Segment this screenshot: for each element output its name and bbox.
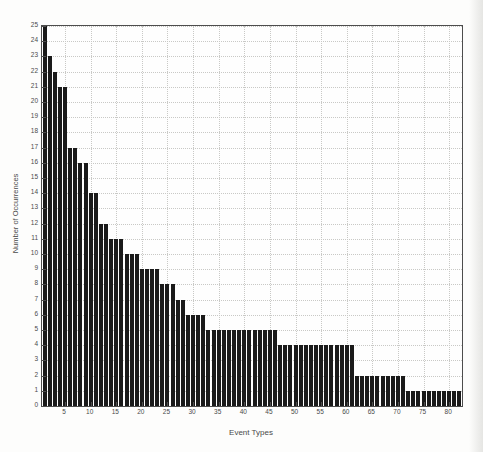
- y-tick-mark: [42, 178, 46, 179]
- bar: [43, 26, 47, 406]
- x-tick-mark: [372, 402, 373, 406]
- y-axis-title: Number of Occurrences: [11, 139, 20, 289]
- y-tick-label: 4: [18, 341, 38, 348]
- bar: [355, 376, 359, 406]
- bar: [288, 345, 292, 406]
- bar: [242, 330, 246, 406]
- bar: [130, 254, 134, 406]
- bar: [145, 269, 149, 406]
- y-tick-label: 20: [18, 98, 38, 105]
- bar: [365, 376, 369, 406]
- y-tick-label: 3: [18, 356, 38, 363]
- bar: [186, 315, 190, 406]
- bar: [247, 330, 251, 406]
- bar: [104, 224, 108, 406]
- bar: [345, 345, 349, 406]
- bar: [391, 376, 395, 406]
- y-tick-label: 15: [18, 174, 38, 181]
- scan-edge-shading: [469, 0, 483, 452]
- y-tick-mark: [42, 72, 46, 73]
- bar: [314, 345, 318, 406]
- bar: [196, 315, 200, 406]
- bar: [73, 148, 77, 406]
- x-tick-label: 15: [105, 409, 125, 416]
- bar: [160, 284, 164, 406]
- horizontal-gridline: [42, 102, 462, 103]
- bar: [53, 72, 57, 406]
- bar: [432, 391, 436, 406]
- bar: [340, 345, 344, 406]
- y-tick-label: 0: [18, 402, 38, 409]
- y-tick-label: 2: [18, 372, 38, 379]
- bar: [437, 391, 441, 406]
- horizontal-gridline: [42, 56, 462, 57]
- x-tick-mark: [167, 402, 168, 406]
- vertical-gridline: [449, 26, 450, 406]
- bar: [135, 254, 139, 406]
- bar: [155, 269, 159, 406]
- bar: [237, 330, 241, 406]
- x-tick-label: 30: [182, 409, 202, 416]
- bar: [350, 345, 354, 406]
- x-tick-label: 40: [233, 409, 253, 416]
- x-tick-mark: [219, 402, 220, 406]
- y-tick-mark: [42, 26, 46, 27]
- bar: [150, 269, 154, 406]
- horizontal-gridline: [42, 117, 462, 118]
- y-tick-mark: [42, 163, 46, 164]
- x-tick-label: 25: [156, 409, 176, 416]
- bar: [227, 330, 231, 406]
- bar: [375, 376, 379, 406]
- horizontal-gridline: [42, 178, 462, 179]
- bar: [381, 376, 385, 406]
- y-tick-label: 12: [18, 220, 38, 227]
- bar: [273, 330, 277, 406]
- horizontal-gridline: [42, 132, 462, 133]
- bar: [329, 345, 333, 406]
- x-tick-label: 10: [80, 409, 100, 416]
- bar: [386, 376, 390, 406]
- x-tick-label: 75: [413, 409, 433, 416]
- bar-chart-figure: 0123456789101112131415161718192021222324…: [0, 0, 483, 452]
- bar: [416, 391, 420, 406]
- bar: [114, 239, 118, 406]
- bar: [78, 163, 82, 406]
- bar: [109, 239, 113, 406]
- y-tick-label: 24: [18, 37, 38, 44]
- x-tick-label: 65: [361, 409, 381, 416]
- y-tick-mark: [42, 315, 46, 316]
- x-tick-mark: [296, 402, 297, 406]
- y-tick-label: 13: [18, 204, 38, 211]
- bar: [299, 345, 303, 406]
- bar: [457, 391, 461, 406]
- y-tick-label: 25: [18, 22, 38, 29]
- bar: [191, 315, 195, 406]
- bar: [63, 87, 67, 406]
- horizontal-gridline: [42, 193, 462, 194]
- y-tick-mark: [42, 56, 46, 57]
- bar: [452, 391, 456, 406]
- x-tick-mark: [244, 402, 245, 406]
- bar: [217, 330, 221, 406]
- y-tick-mark: [42, 41, 46, 42]
- bar: [119, 239, 123, 406]
- y-tick-label: 17: [18, 144, 38, 151]
- horizontal-gridline: [42, 208, 462, 209]
- bar: [140, 269, 144, 406]
- y-tick-mark: [42, 87, 46, 88]
- y-tick-label: 7: [18, 296, 38, 303]
- vertical-gridline: [372, 26, 373, 406]
- bar: [165, 284, 169, 406]
- x-tick-mark: [91, 402, 92, 406]
- horizontal-gridline: [42, 87, 462, 88]
- y-tick-label: 5: [18, 326, 38, 333]
- x-tick-label: 80: [438, 409, 458, 416]
- bar: [309, 345, 313, 406]
- bar: [263, 330, 267, 406]
- vertical-gridline: [398, 26, 399, 406]
- bar: [406, 391, 410, 406]
- bar: [304, 345, 308, 406]
- bar: [84, 163, 88, 406]
- bar: [258, 330, 262, 406]
- horizontal-gridline: [42, 72, 462, 73]
